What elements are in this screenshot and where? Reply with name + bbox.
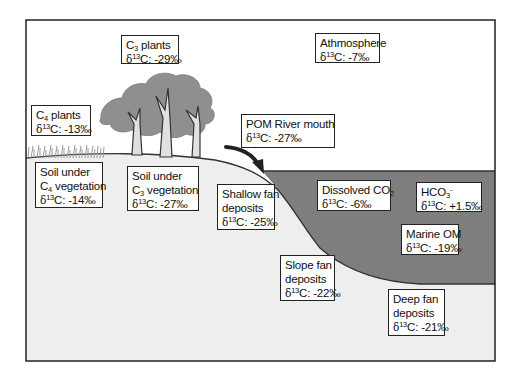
label-slope-fan-deposits: Slope fan deposits δ13C: -22‰ [280, 255, 335, 301]
label-atmosphere: Athmosphere δ13C: -7‰ [315, 33, 380, 63]
label-c3-plants: C3 plants δ13C: -29‰ [121, 35, 179, 64]
label-pom-river-mouth: POM River mouth δ13C: -27‰ [241, 114, 335, 148]
label-deep-fan-deposits: Deep fan deposits δ13C: -21‰ [388, 289, 445, 336]
label-soil-c4: Soil under C4 vegetation δ13C: -14‰ [35, 162, 103, 208]
label-soil-c3: Soil under C3 vegetation δ13C: -27‰ [127, 166, 199, 211]
label-hco3: HCO3- δ13C: +1.5‰ [416, 182, 482, 212]
label-shallow-fan-deposits: Shallow fan deposits δ13C: -25‰ [217, 184, 275, 230]
label-c4-plants: C4 plants δ13C: -13‰ [31, 105, 91, 136]
label-dissolved-co2: Dissolved CO2 δ13C: -6‰ [317, 180, 391, 211]
label-marine-om: Marine OM δ13C: -19‰ [401, 224, 459, 255]
